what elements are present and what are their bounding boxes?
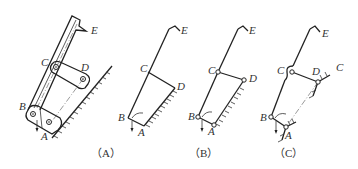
panel-a: E C D B A （A） <box>19 16 121 159</box>
label-c-ground: C <box>336 61 344 73</box>
panel-b: E C D B A （B） <box>118 24 218 159</box>
label-b: B <box>19 100 26 112</box>
label-b: B <box>188 110 195 122</box>
label-b: B <box>118 111 125 123</box>
label-d: D <box>248 72 257 84</box>
label-a: A <box>40 130 48 142</box>
label-d: D <box>176 80 185 92</box>
label-d: D <box>311 65 320 77</box>
label-d: D <box>80 61 89 73</box>
label-a: A <box>284 129 292 141</box>
label-c: C <box>41 56 49 68</box>
caption-b: （B） <box>189 147 218 159</box>
label-e: E <box>90 24 98 36</box>
label-e: E <box>248 24 256 36</box>
mechanism-diagram: E C D B A （A） E C D B A （B） <box>0 0 358 169</box>
label-c: C <box>140 62 148 74</box>
label-c: C <box>208 64 216 76</box>
caption-c: （C） <box>274 147 303 159</box>
label-e: E <box>180 24 188 36</box>
label-a: A <box>137 126 145 138</box>
label-c: C <box>277 64 285 76</box>
label-e: E <box>321 27 329 39</box>
label-a: A <box>207 125 215 137</box>
caption-a: （A） <box>91 147 121 159</box>
label-b: B <box>260 111 267 123</box>
panel-c: E C D C B A （C） <box>260 26 344 159</box>
panel-b2: E C D B A <box>188 24 257 137</box>
